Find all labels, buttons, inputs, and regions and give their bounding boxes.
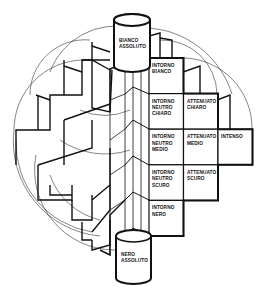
cell-label-intorno-neutro-medio: INTORNO NEUTRO MEDIO xyxy=(152,133,174,152)
cell-label-attenuato-chiaro: ATTENUATO CHIARO xyxy=(187,98,216,111)
central-shaft xyxy=(110,64,149,255)
cell-label-attenuato-medio: ATTENUATO MEDIO xyxy=(187,133,216,146)
cell-label-intenso: INTENSO xyxy=(221,133,243,139)
left-stepped-slabs xyxy=(16,42,125,255)
cell-label-intorno-neutro-chiaro: INTORNO NEUTRO CHIARO xyxy=(152,98,174,117)
cell-label-intorno-neutro-scuro: INTORNO NEUTRO SCURO xyxy=(152,169,174,188)
cell-label-intorno-bianco: INTORNO BIANCO xyxy=(152,62,174,75)
cell-label-attenuato-scuro: ATTENUATO SCURO xyxy=(187,169,216,182)
cell-label-intorno-nero: INTORNO NERO xyxy=(152,204,174,217)
cylinder-label-nero-assoluto: NERO ASSOLUTO xyxy=(121,251,148,264)
cylinders xyxy=(114,14,151,284)
cylinder-label-bianco-assoluto: BIANCO ASSOLUTO xyxy=(119,37,146,50)
